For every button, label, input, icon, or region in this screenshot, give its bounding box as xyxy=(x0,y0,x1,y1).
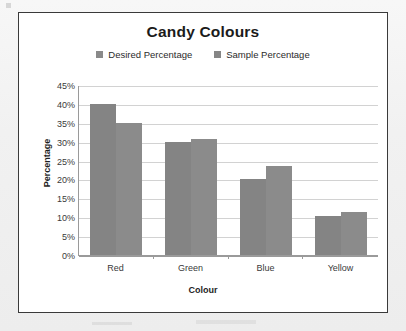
x-axis-tick-mark xyxy=(153,255,154,259)
y-axis-tick-label: 30% xyxy=(57,138,75,148)
y-axis-tick-label: 20% xyxy=(57,175,75,185)
y-axis-tick-labels: 45%40%35%30%25%20%15%10%5%0% xyxy=(41,86,75,256)
x-axis-title: Colour xyxy=(19,285,387,295)
plot-wrapper: Percentage 45%40%35%30%25%20%15%10%5%0% … xyxy=(19,13,387,312)
x-axis-tick-label: Green xyxy=(153,263,228,273)
bar[interactable] xyxy=(240,179,266,255)
bar-group xyxy=(303,86,378,255)
bar[interactable] xyxy=(165,142,191,255)
y-axis-tick-label: 15% xyxy=(57,194,75,204)
bar[interactable] xyxy=(90,104,116,255)
bar[interactable] xyxy=(116,123,142,255)
chart-canvas: Candy Colours Desired Percentage Sample … xyxy=(19,13,387,312)
x-axis-tick-label: Blue xyxy=(228,263,303,273)
y-axis-tick-label: 25% xyxy=(57,157,75,167)
x-axis-tick-label: Red xyxy=(78,263,153,273)
bar-group xyxy=(79,86,154,255)
x-axis-tick-mark xyxy=(228,255,229,259)
bars-layer xyxy=(79,86,378,255)
y-axis-tick-label: 10% xyxy=(57,213,75,223)
bar[interactable] xyxy=(315,216,341,255)
scan-speck xyxy=(92,322,132,325)
bar[interactable] xyxy=(191,139,217,255)
bar[interactable] xyxy=(266,166,292,255)
x-axis-tick-labels: RedGreenBlueYellow xyxy=(78,263,378,273)
scan-speck xyxy=(6,3,11,8)
scan-speck xyxy=(196,320,256,324)
gridline xyxy=(79,256,378,257)
bar[interactable] xyxy=(341,212,367,255)
bar-group xyxy=(154,86,229,255)
y-axis-tick-label: 40% xyxy=(57,100,75,110)
plot-area xyxy=(78,86,378,256)
x-axis-tick-label: Yellow xyxy=(303,263,378,273)
x-axis-tick-mark xyxy=(302,255,303,259)
bar-group xyxy=(229,86,304,255)
y-axis-tick-label: 0% xyxy=(62,251,75,261)
y-axis-tick-label: 35% xyxy=(57,119,75,129)
y-axis-tick-label: 45% xyxy=(57,81,75,91)
y-axis-tick-label: 5% xyxy=(62,232,75,242)
chart-frame: Candy Colours Desired Percentage Sample … xyxy=(18,12,388,313)
